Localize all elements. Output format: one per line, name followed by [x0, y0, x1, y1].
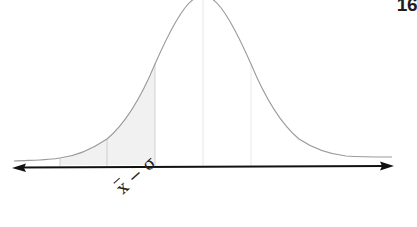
shaded-region [60, 64, 155, 165]
left-arrow-icon [12, 164, 26, 173]
page-number: 16 [397, 0, 417, 16]
right-arrow-icon [380, 162, 394, 171]
x-axis [20, 166, 386, 168]
normal-distribution-diagram [0, 0, 417, 227]
